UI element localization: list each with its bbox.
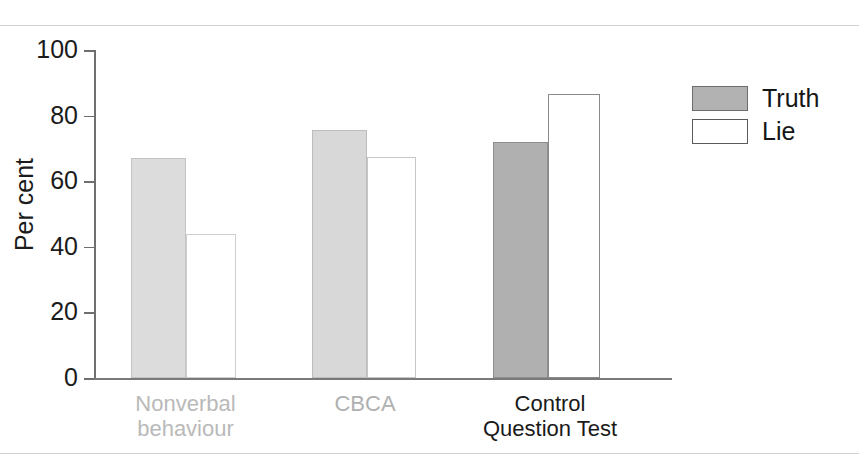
bar-control-question-test-truth [493, 142, 548, 378]
legend-item-truth: Truth [692, 86, 852, 111]
bar-nonverbal-behaviour-lie [186, 234, 236, 378]
bar-control-question-test-lie [548, 94, 600, 378]
y-tick-label-20: 20 [8, 299, 78, 324]
legend-swatch-truth [692, 86, 748, 111]
x-category-label-nonverbal-behaviour: Nonverbal behaviour [103, 392, 268, 441]
legend-label-truth: Truth [762, 86, 819, 111]
y-tick-label-80: 80 [8, 103, 78, 128]
legend: Truth Lie [692, 86, 852, 152]
bar-cbca-truth [312, 130, 367, 378]
plot-area: 100 80 60 40 20 0 Per cent Nonverbal beh… [0, 0, 859, 472]
figure: 100 80 60 40 20 0 Per cent Nonverbal beh… [0, 0, 859, 472]
bar-nonverbal-behaviour-truth [131, 158, 186, 378]
x-category-label-control-question-test: Control Question Test [450, 392, 650, 441]
y-tick-0 [84, 378, 94, 380]
y-axis-line [94, 50, 96, 379]
legend-label-lie: Lie [762, 119, 795, 144]
bar-cbca-lie [367, 157, 416, 378]
y-tick-100 [84, 50, 94, 52]
legend-item-lie: Lie [692, 119, 852, 144]
y-tick-40 [84, 247, 94, 249]
y-tick-80 [84, 116, 94, 118]
legend-swatch-lie [692, 119, 748, 144]
y-axis-title: Per cent [10, 145, 39, 265]
x-category-label-cbca: CBCA [285, 392, 445, 417]
y-tick-label-100: 100 [8, 37, 78, 62]
x-axis-line [94, 378, 672, 380]
y-tick-20 [84, 312, 94, 314]
y-tick-60 [84, 181, 94, 183]
y-tick-label-0: 0 [8, 365, 78, 390]
